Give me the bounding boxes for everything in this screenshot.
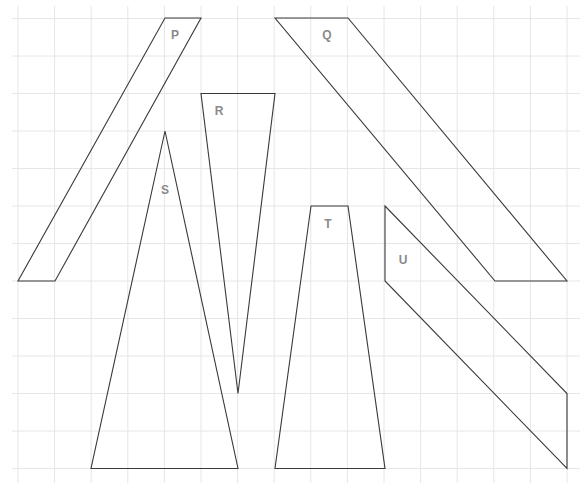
shape-label-r: R — [215, 104, 224, 118]
shape-label-u: U — [399, 253, 408, 267]
shape-label-p: P — [171, 28, 179, 42]
shape-label-t: T — [324, 217, 331, 231]
grid — [12, 6, 580, 483]
grid-diagram — [0, 0, 588, 489]
shape-t — [275, 206, 385, 469]
shape-label-s: S — [161, 183, 169, 197]
shape-label-q: Q — [322, 28, 331, 42]
shape-u — [385, 206, 567, 469]
shape-p — [18, 18, 201, 281]
